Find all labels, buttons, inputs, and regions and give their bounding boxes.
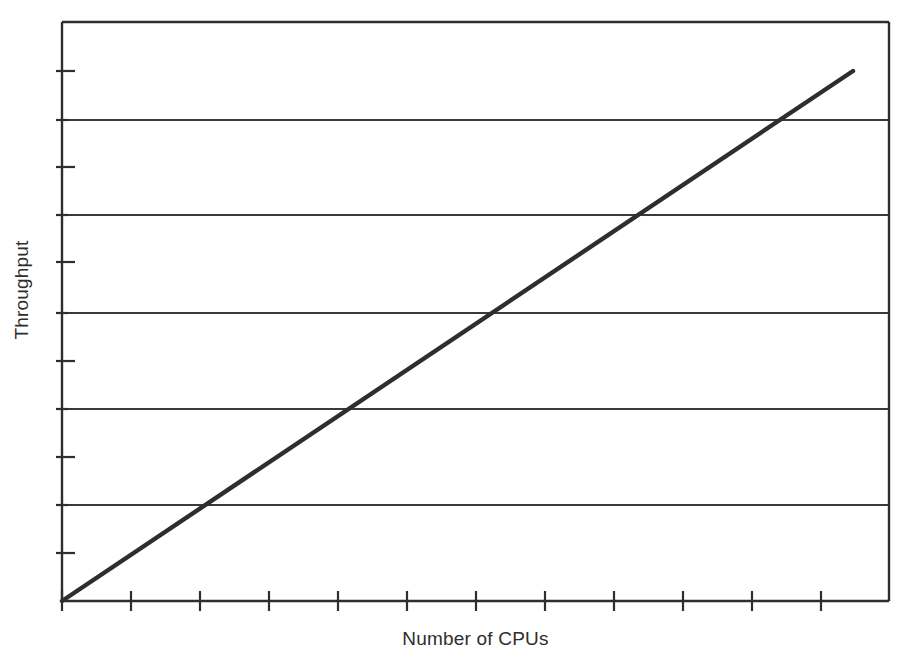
chart-figure: Throughput Number of CPUs xyxy=(0,0,911,667)
throughput-vs-cpus-line-chart xyxy=(0,0,911,667)
x-axis-label: Number of CPUs xyxy=(62,628,889,650)
y-axis-label-text: Throughput xyxy=(11,240,33,339)
chart-background xyxy=(0,0,911,667)
y-axis-label: Throughput xyxy=(0,0,44,580)
